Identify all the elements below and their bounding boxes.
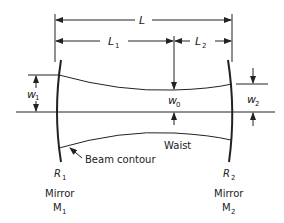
svg-text:R: R: [54, 168, 61, 179]
mirror-m1-label: Mirror M 1: [45, 188, 75, 216]
w2-label: w 2: [247, 93, 259, 108]
svg-text:M: M: [222, 202, 231, 213]
svg-text:2: 2: [255, 100, 259, 108]
beam-contour-bottom: [59, 133, 231, 148]
svg-text:L: L: [139, 14, 145, 27]
svg-text:0: 0: [176, 101, 180, 109]
svg-text:1: 1: [35, 94, 39, 102]
svg-text:Mirror: Mirror: [45, 188, 75, 199]
svg-text:2: 2: [202, 42, 206, 50]
svg-text:Mirror: Mirror: [214, 188, 244, 199]
beam-contour-pointer: [70, 148, 82, 158]
svg-text:R: R: [223, 168, 230, 179]
R1-label: R 1: [54, 168, 66, 182]
mirror-m2: [228, 60, 232, 162]
L-label: L: [139, 14, 145, 27]
L1-label: L 1: [108, 35, 119, 50]
svg-text:M: M: [53, 202, 62, 213]
svg-text:1: 1: [62, 208, 66, 216]
w0-label: w 0: [168, 94, 180, 109]
svg-text:L: L: [108, 35, 114, 48]
svg-text:1: 1: [115, 42, 119, 50]
L2-label: L 2: [195, 35, 206, 50]
svg-text:2: 2: [231, 174, 235, 182]
w1-label: w 1: [27, 88, 39, 102]
waist-label: Waist: [164, 140, 191, 151]
svg-text:2: 2: [231, 208, 235, 216]
resonator-diagram: L L 1 L 2 w 1 w 0 w 2 Waist Beam contour…: [0, 0, 284, 223]
mirror-m2-label: Mirror M 2: [214, 188, 244, 216]
R2-label: R 2: [223, 168, 235, 182]
svg-text:L: L: [195, 35, 201, 48]
beam-contour-top: [59, 75, 232, 90]
beam-contour-label: Beam contour: [85, 154, 156, 165]
svg-text:1: 1: [62, 174, 66, 182]
